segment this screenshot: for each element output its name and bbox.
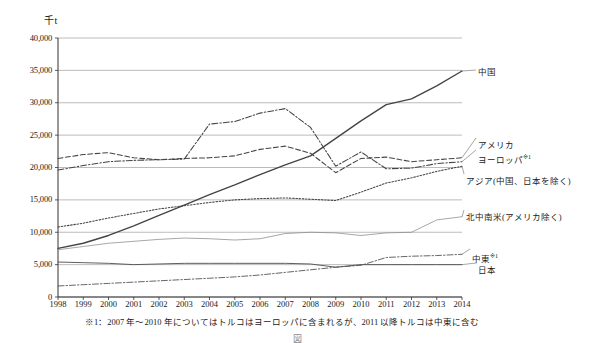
series-footnote-mark: ※1 xyxy=(490,253,498,259)
y-axis-tick: 35,000 xyxy=(8,66,52,75)
series-label-text: 日本 xyxy=(478,265,496,275)
series-label-text: 北中南米(アメリカ除く) xyxy=(466,212,562,222)
y-axis-tick: 25,000 xyxy=(8,131,52,140)
y-axis-tick: 40,000 xyxy=(8,34,52,43)
series-label-6: 中東※1 xyxy=(472,251,498,264)
chart-container: 千t 05,00010,00015,00020,00025,00030,0003… xyxy=(0,0,595,343)
y-axis-tick: 20,000 xyxy=(8,163,52,172)
series-label-4: アジア(中国、日本を除く) xyxy=(466,176,571,186)
line-chart-plot xyxy=(0,0,595,343)
series-label-text: 中国 xyxy=(478,67,496,77)
figure-caption: 図 xyxy=(0,332,595,343)
y-axis-tick: 10,000 xyxy=(8,228,52,237)
series-label-7: 日本 xyxy=(478,265,496,275)
series-label-2: アメリカ xyxy=(478,140,514,150)
y-axis-tick: 5,000 xyxy=(8,260,52,269)
y-axis-tick: 15,000 xyxy=(8,195,52,204)
series-label-text: アジア(中国、日本を除く) xyxy=(466,176,571,186)
series-label-text: ヨーロッパ xyxy=(478,155,523,165)
x-axis-tick: 2014 xyxy=(445,300,479,309)
footnote-text: ※1：2007 年～2010 年についてはトルコはヨーロッパに含まれるが、201… xyxy=(85,315,479,327)
series-label-text: 中東 xyxy=(472,254,490,264)
y-axis-tick: 30,000 xyxy=(8,98,52,107)
series-label-5: 北中南米(アメリカ除く) xyxy=(466,212,562,222)
series-footnote-mark: ※1 xyxy=(523,154,531,160)
series-label-1: 中国 xyxy=(478,67,496,77)
series-label-text: アメリカ xyxy=(478,140,514,150)
series-label-3: ヨーロッパ※1 xyxy=(478,152,531,165)
